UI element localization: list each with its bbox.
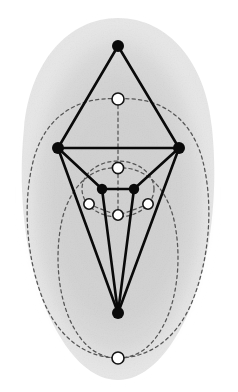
vertex-upper-face[interactable]: [112, 93, 124, 105]
vertex-outer-face[interactable]: [112, 352, 124, 364]
vertex-left-face[interactable]: [84, 199, 94, 209]
vertex-left-hub[interactable]: [52, 142, 64, 154]
vertex-mid-face[interactable]: [112, 162, 123, 173]
background-blob: [0, 0, 238, 392]
figure-root: [0, 0, 238, 392]
vertex-right-face[interactable]: [143, 199, 153, 209]
background-blob-texture: [0, 0, 238, 392]
vertex-inner-face[interactable]: [113, 210, 123, 220]
vertex-bottom-apex[interactable]: [112, 307, 124, 319]
vertex-inner-right[interactable]: [129, 184, 139, 194]
graph-diagram-svg: [0, 0, 238, 392]
vertex-inner-left[interactable]: [97, 184, 107, 194]
vertex-top-apex[interactable]: [112, 40, 124, 52]
vertex-right-hub[interactable]: [173, 142, 185, 154]
